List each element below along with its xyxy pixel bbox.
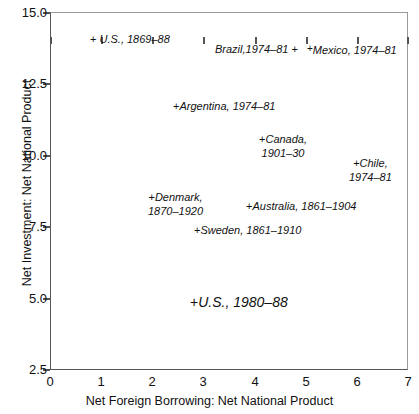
- data-point-label-text: Canada,: [265, 133, 307, 145]
- data-point-label-line2: 1870–1920: [148, 205, 203, 219]
- x-tick-label-4: 4: [235, 374, 275, 389]
- x-tick-0: [50, 37, 52, 44]
- data-point-label-text: Australia, 1861–1904: [252, 200, 356, 212]
- data-point-argentina-1974-81: +Argentina, 1974–81: [173, 100, 275, 114]
- data-point-label-text: Argentina, 1974–81: [179, 100, 275, 112]
- data-point-label-line2: 1901–30: [259, 147, 307, 161]
- plus-marker-icon: +: [291, 43, 297, 55]
- data-point-label-line2: 1974–81: [349, 171, 392, 185]
- data-point-label-text: Chile,: [360, 157, 388, 169]
- data-point-brazil-1974-81: Brazil,1974–81 +: [215, 43, 298, 57]
- data-point-canada-1901-30: +Canada, 1901–30: [259, 133, 307, 161]
- data-point-australia-1861-1904: +Australia, 1861–1904: [246, 200, 356, 214]
- data-point-label-text: U.S., 1980–88: [198, 294, 288, 310]
- plot-area: [50, 12, 408, 370]
- x-tick-label-5: 5: [286, 374, 326, 389]
- x-axis-title: Net Foreign Borrowing: Net National Prod…: [0, 394, 419, 408]
- data-point-label-text: Mexico, 1974–81: [313, 44, 397, 56]
- data-point-sweden-1861-1910: +Sweden, 1861–1910: [194, 224, 301, 238]
- data-point-label-text: U.S., 1869–88: [96, 33, 169, 45]
- data-point-us-1869-88: + U.S., 1869–88: [90, 33, 170, 47]
- scatter-chart-figure: 0 1 2 3 4 5 6 7 2.5 5.0 7.5 10.0 12.5 15…: [0, 0, 419, 414]
- data-point-label-line1: +Denmark,: [148, 191, 203, 205]
- data-point-label-text: Brazil,1974–81: [215, 43, 291, 55]
- x-tick-label-3: 3: [183, 374, 223, 389]
- data-point-chile-1974-81: +Chile, 1974–81: [349, 157, 392, 185]
- x-tick-label-7: 7: [388, 374, 419, 389]
- x-tick-3: [203, 37, 205, 44]
- data-point-label-text: Sweden, 1861–1910: [200, 224, 301, 236]
- data-point-mexico-1974-81: +Mexico, 1974–81: [307, 43, 397, 58]
- y-axis-title: Net Investment: Net National Product: [20, 0, 34, 378]
- x-tick-label-6: 6: [337, 374, 377, 389]
- data-point-label-line1: +Canada,: [259, 133, 307, 147]
- plus-marker-icon: +: [190, 294, 198, 310]
- data-point-label-text: Denmark,: [155, 191, 203, 203]
- x-tick-7: [407, 37, 409, 44]
- data-point-label-line1: +Chile,: [349, 157, 392, 171]
- data-point-us-1980-88: +U.S., 1980–88: [190, 294, 288, 312]
- x-tick-label-1: 1: [81, 374, 121, 389]
- x-tick-label-2: 2: [132, 374, 172, 389]
- data-point-denmark-1870-1920: +Denmark, 1870–1920: [148, 191, 203, 219]
